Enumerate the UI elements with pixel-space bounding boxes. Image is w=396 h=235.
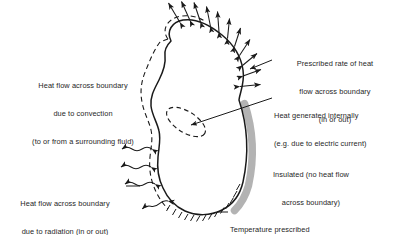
radiation-label: Heat flow across boundary due to radiati…	[2, 181, 128, 235]
prescribed-flux-leader	[250, 60, 272, 69]
convection-label: Heat flow across boundary due to convect…	[8, 63, 158, 164]
figure-canvas: Heat flow across boundary due to convect…	[0, 0, 396, 235]
temperature-prescribed-label: Temperature prescribed	[230, 207, 350, 235]
body-outline	[151, 20, 247, 215]
